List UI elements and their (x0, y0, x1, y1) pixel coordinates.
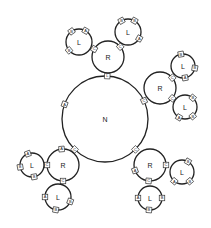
port-label: B (69, 199, 72, 204)
port-label: A (178, 115, 181, 120)
node-label: R (147, 162, 152, 169)
port-l: L (104, 73, 110, 79)
node-r2: RCC (144, 72, 176, 104)
port-c: C (140, 97, 147, 104)
port-label: B (19, 164, 22, 169)
node-label: R (105, 54, 110, 61)
port-label: B (33, 174, 36, 179)
node-n: NLACCC (61, 73, 148, 162)
node-l2: LBBA (115, 17, 143, 45)
port-label: A (173, 179, 176, 184)
port-label: C (62, 178, 65, 183)
node-label: L (148, 195, 152, 202)
port-c: C (44, 162, 50, 168)
port-b: B (53, 207, 59, 213)
port-label: B (54, 207, 57, 212)
node-l1: LBAB (65, 27, 92, 55)
port-c: C (146, 178, 152, 184)
node-r1: RCC (90, 41, 124, 73)
port-label: A (184, 75, 187, 80)
node-label: L (56, 194, 60, 201)
port-label: A (84, 28, 87, 33)
port-a: A (61, 101, 68, 108)
port-label: C (93, 46, 96, 51)
node-label: L (181, 63, 185, 70)
node-l6: LABB (42, 184, 73, 213)
port-label: B (133, 18, 136, 23)
node-label: R (60, 162, 65, 169)
port-c: C (163, 162, 169, 168)
port-c: C (60, 178, 66, 184)
port-label: C (119, 44, 122, 49)
port-b: B (31, 174, 37, 180)
port-b: B (178, 51, 184, 57)
port-label: C (165, 162, 168, 167)
port-label: B (180, 52, 183, 57)
node-label: R (157, 85, 162, 92)
node-l4: LBBA (173, 94, 197, 121)
port-b: B (17, 164, 23, 170)
port-label: B (191, 114, 194, 119)
node-label: L (126, 29, 130, 36)
port-a: A (182, 75, 188, 81)
port-label: A (60, 146, 63, 151)
node-label: L (77, 39, 81, 46)
port-label: C (143, 98, 146, 103)
port-b: B (146, 207, 152, 213)
port-label: C (46, 162, 49, 167)
port-a: A (131, 167, 138, 174)
port-a: A (135, 195, 141, 201)
node-r4: RACC (131, 149, 168, 184)
port-label: B (161, 195, 164, 200)
port-label: C (73, 147, 76, 152)
port-label: B (148, 207, 151, 212)
port-label: A (134, 168, 137, 173)
port-label: B (191, 95, 194, 100)
port-label: A (27, 151, 30, 156)
port-b: B (159, 195, 165, 201)
port-b: B (192, 65, 198, 71)
port-b: B (67, 198, 74, 205)
port-label: B (68, 48, 71, 53)
node-l8: LABB (135, 186, 165, 213)
port-a: A (24, 150, 31, 157)
port-label: A (63, 102, 66, 107)
diagram-canvas: NLACCCRCCLBABLBBARCCLBBALBBARACCLABBLABB… (0, 0, 211, 228)
node-label: L (30, 162, 34, 169)
port-label: B (120, 18, 123, 23)
port-a: A (59, 146, 65, 152)
port-label: B (70, 29, 73, 34)
port-a: A (42, 194, 48, 200)
node-label: N (102, 116, 107, 123)
node-label: L (180, 169, 184, 176)
port-label: C (171, 75, 174, 80)
node-l5: LABB (17, 150, 44, 180)
node-l7: LBBA (170, 158, 194, 185)
port-label: C (171, 96, 174, 101)
port-label: C (134, 147, 137, 152)
port-label: A (44, 194, 47, 199)
node-label: L (183, 104, 187, 111)
port-label: B (188, 179, 191, 184)
port-label: B (193, 65, 196, 70)
port-label: A (138, 36, 141, 41)
port-label: C (147, 178, 150, 183)
port-label: B (187, 159, 190, 164)
port-label: A (137, 195, 140, 200)
